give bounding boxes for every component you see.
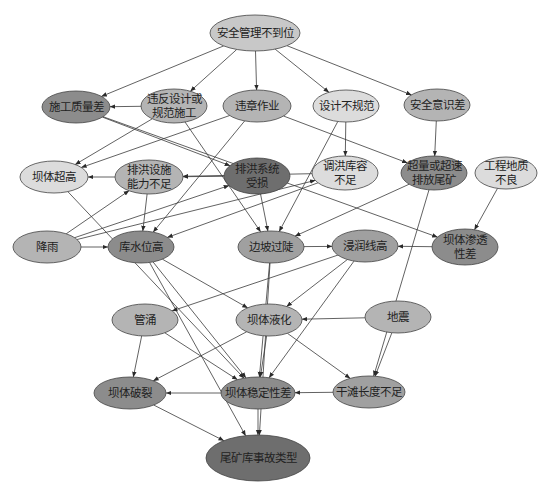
node-label: 调洪库容	[323, 159, 368, 173]
node-label: 坝体超高	[32, 170, 76, 184]
node-label: 坝体稳定性差	[225, 386, 291, 400]
node-label: 设计不规范	[319, 99, 375, 113]
node-high-phreatic: 浸润线高	[332, 230, 398, 262]
node-design-nonstandard: 设计不规范	[313, 90, 379, 122]
edge-n_design_nonstandard-to-n_flood_storage	[345, 122, 346, 156]
edge-n_liquefaction-to-n_dam_crack	[153, 332, 246, 381]
edge-n_earthquake-to-n_short_beach	[375, 333, 392, 377]
node-label: 安全意识差	[410, 98, 465, 112]
node-label: 受损	[246, 176, 269, 190]
edge-n_earthquake-to-n_liquefaction	[302, 318, 365, 319]
node-label: 干滩长度不足	[336, 385, 403, 399]
node-dam-instability: 坝体稳定性差	[221, 377, 295, 409]
node-poor-permeability: 坝体渗透性差	[432, 229, 498, 265]
node-poor-geology: 工程地质不良	[475, 157, 537, 189]
edge-n_rainfall-to-n_drain_capacity	[66, 191, 129, 234]
node-label: 坝体破裂	[108, 386, 153, 400]
node-label: 超量或超速	[407, 159, 463, 173]
edge-n_illegal_ops-to-n_dam_overheight	[81, 116, 229, 168]
edge-n_violate_design-to-n_dam_overheight	[75, 119, 152, 165]
node-over-discharge: 超量或超速排放尾矿	[401, 156, 467, 190]
node-label: 规范施工	[152, 106, 196, 120]
node-drain-damaged: 排洪系统受损	[224, 158, 290, 194]
node-label: 不足	[334, 173, 357, 187]
edge-n_over_discharge-to-n_short_beach	[374, 190, 429, 376]
node-rainfall: 降雨	[13, 231, 81, 263]
fault-causal-diagram: 安全管理不到位施工质量差违反设计或规范施工违章作业设计不规范安全意识差坝体超高排…	[0, 0, 552, 499]
node-label: 库水位高	[119, 240, 163, 254]
node-label: 安全管理不到位	[217, 26, 294, 40]
edge-n_construction_quality-to-n_drain_damaged	[102, 117, 230, 166]
node-safety-mgmt: 安全管理不到位	[210, 15, 300, 51]
node-piping: 管涌	[112, 304, 178, 336]
node-drain-capacity: 排洪设施能力不足	[115, 160, 183, 194]
node-steep-slope: 边坡过陡	[238, 231, 304, 263]
node-label: 坝体液化	[247, 313, 292, 327]
node-label: 性差	[454, 247, 476, 261]
edge-n_piping-to-n_dam_crack	[133, 336, 141, 377]
edge-n_drain_damaged-to-n_steep_slope	[261, 194, 268, 231]
node-liquefaction: 坝体液化	[236, 304, 302, 336]
node-label: 不良	[495, 173, 517, 187]
edge-n_safety_mgmt-to-n_illegal_ops	[256, 51, 257, 90]
node-label: 违反设计或	[147, 92, 203, 106]
node-label: 违章作业	[235, 99, 279, 113]
node-dam-overheight: 坝体超高	[20, 161, 88, 193]
node-earthquake: 地震	[365, 301, 431, 333]
edge-n_drain_capacity-to-n_high_water	[143, 194, 147, 231]
node-label: 施工质量差	[49, 100, 104, 114]
edge-n_safety_mgmt-to-n_violate_design	[190, 50, 236, 92]
node-label: 边坡过陡	[249, 240, 294, 254]
node-label: 坝体渗透	[443, 233, 488, 247]
node-label: 排洪设施	[127, 163, 172, 177]
edge-n_piping-to-n_dam_instability	[165, 333, 238, 380]
edge-n_safety_mgmt-to-n_design_nonstandard	[275, 49, 329, 92]
node-label: 地震	[387, 310, 410, 324]
edge-n_high_water-to-n_accident_type	[150, 263, 246, 436]
edge-n_high_phreatic-to-n_piping	[172, 255, 338, 311]
node-dam-crack: 坝体破裂	[94, 377, 166, 409]
node-violate-design: 违反设计或规范施工	[141, 89, 207, 123]
node-illegal-ops: 违章作业	[223, 90, 291, 122]
node-flood-storage: 调洪库容不足	[312, 156, 378, 190]
node-short-beach: 干滩长度不足	[333, 376, 405, 408]
node-safety-awareness: 安全意识差	[404, 89, 470, 121]
node-label: 排放尾矿	[412, 173, 456, 187]
node-label: 尾矿库事故类型	[220, 451, 297, 465]
edge-n_high_water-to-n_liquefaction	[162, 259, 247, 308]
node-label: 降雨	[36, 240, 58, 254]
edge-n_safety_mgmt-to-n_safety_awareness	[287, 46, 411, 95]
edge-n_liquefaction-to-n_short_beach	[287, 333, 350, 378]
node-label: 能力不足	[127, 177, 172, 191]
node-label: 管涌	[134, 313, 156, 327]
edge-n_dam_crack-to-n_accident_type	[154, 405, 224, 441]
edge-n_safety_awareness-to-n_over_discharge	[435, 121, 437, 156]
edge-n_poor_geology-to-n_poor_permeability	[475, 188, 498, 229]
node-accident-type: 尾矿库事故类型	[206, 435, 310, 481]
node-label: 浸润线高	[343, 239, 387, 253]
edge-n_safety_mgmt-to-n_construction_quality	[102, 46, 224, 97]
node-construction-quality: 施工质量差	[42, 91, 110, 123]
node-label: 工程地质	[484, 159, 528, 173]
node-label: 排洪系统	[235, 162, 280, 176]
node-high-water: 库水位高	[108, 231, 174, 263]
nodes-layer: 安全管理不到位施工质量差违反设计或规范施工违章作业设计不规范安全意识差坝体超高排…	[13, 15, 537, 481]
